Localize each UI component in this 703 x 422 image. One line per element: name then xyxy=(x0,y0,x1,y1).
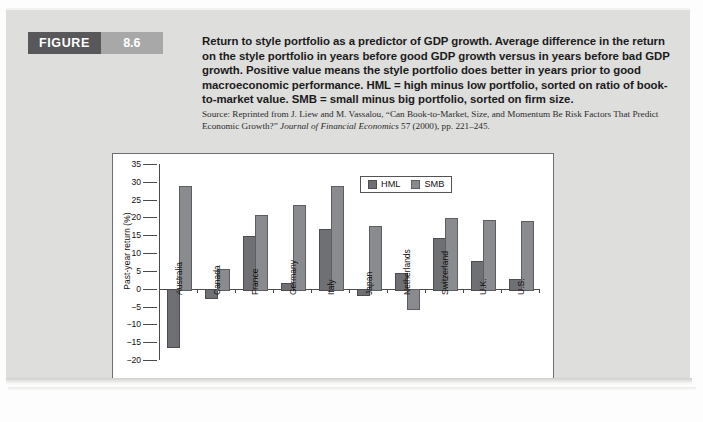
panel-shadow xyxy=(6,378,692,387)
y-axis-tick-label: −20 xyxy=(113,355,141,365)
figure-badge-label: FIGURE xyxy=(28,32,101,54)
bar-hml-australia xyxy=(167,289,180,348)
y-axis-tick xyxy=(143,271,157,272)
y-axis-tick xyxy=(143,324,157,325)
y-axis-tick-label: 30 xyxy=(113,177,141,187)
y-axis-tick-label: 35 xyxy=(113,159,141,169)
x-axis-label-us: U.S. xyxy=(516,278,526,295)
y-axis-tick-label: 20 xyxy=(113,212,141,222)
legend-label-smb: SMB xyxy=(424,179,444,189)
y-axis-tick-label: 15 xyxy=(113,230,141,240)
figure-panel: FIGURE 8.6 Return to style portfolio as … xyxy=(6,8,690,380)
y-axis-tick xyxy=(143,289,157,290)
source-suffix: 57 (2000), pp. 221–245. xyxy=(399,121,490,131)
y-axis-tick xyxy=(143,342,157,343)
legend-swatch-smb-icon xyxy=(411,180,420,189)
y-axis-tick xyxy=(143,253,157,254)
x-axis-label-germany: Germany xyxy=(288,260,298,295)
x-axis-label-italy: Italy xyxy=(326,279,336,295)
x-axis-label-uk: U.K. xyxy=(478,278,488,295)
y-axis-tick xyxy=(143,182,157,183)
x-axis-tick xyxy=(311,289,312,293)
y-axis-tick-label: −10 xyxy=(113,319,141,329)
bar-series-container xyxy=(159,164,539,360)
y-axis-tick-label: 10 xyxy=(113,248,141,258)
y-axis-tick xyxy=(143,307,157,308)
x-axis-label-japan: Japan xyxy=(364,272,374,295)
y-axis-tick xyxy=(143,164,157,165)
x-axis-tick xyxy=(197,289,198,293)
x-axis-tick xyxy=(425,289,426,293)
figure-badge-number: 8.6 xyxy=(101,32,163,54)
x-axis-label-australia: Australia xyxy=(174,262,184,295)
x-axis-tick xyxy=(235,289,236,293)
legend-label-hml: HML xyxy=(381,179,400,189)
panel-shadow-secondary xyxy=(8,387,696,391)
x-axis-label-france: France xyxy=(250,268,260,294)
bar-smb-italy xyxy=(331,186,344,291)
y-axis-tick xyxy=(143,360,157,361)
legend-item-smb: SMB xyxy=(411,179,444,189)
y-axis-tick-label: 25 xyxy=(113,195,141,205)
y-axis-tick xyxy=(143,217,157,218)
x-axis-tick xyxy=(159,289,160,293)
y-axis-tick xyxy=(143,200,157,201)
y-axis-tick-label: −5 xyxy=(113,302,141,312)
figure-caption: Return to style portfolio as a predictor… xyxy=(202,34,680,107)
legend-swatch-hml-icon xyxy=(368,180,377,189)
x-axis-label-canada: Canada xyxy=(212,265,222,295)
y-axis-tick-label: 5 xyxy=(113,266,141,276)
x-axis-label-switzerland: Switzerland xyxy=(440,251,450,295)
figure-badge: FIGURE 8.6 xyxy=(28,32,163,54)
x-axis-tick xyxy=(501,289,502,293)
x-axis-tick xyxy=(387,289,388,293)
source-journal: Journal of Financial Economics xyxy=(280,121,399,131)
legend-item-hml: HML xyxy=(368,179,400,189)
y-axis-tick-label: 0 xyxy=(113,284,141,294)
plot-area: Past-year return (%) 35302520151050−5−10… xyxy=(113,154,553,381)
x-axis-tick xyxy=(539,289,540,293)
x-axis-label-netherlands: Netherlands xyxy=(402,249,412,295)
x-axis-tick xyxy=(463,289,464,293)
chart-legend: HML SMB xyxy=(360,176,452,193)
figure-source: Source: Reprinted from J. Liew and M. Va… xyxy=(202,109,682,132)
x-axis-tick xyxy=(273,289,274,293)
y-axis-tick-label: −15 xyxy=(113,337,141,347)
chart-card: Past-year return (%) 35302520151050−5−10… xyxy=(112,153,554,382)
x-axis-tick xyxy=(349,289,350,293)
figure-page: FIGURE 8.6 Return to style portfolio as … xyxy=(0,0,703,422)
y-axis-tick xyxy=(143,235,157,236)
